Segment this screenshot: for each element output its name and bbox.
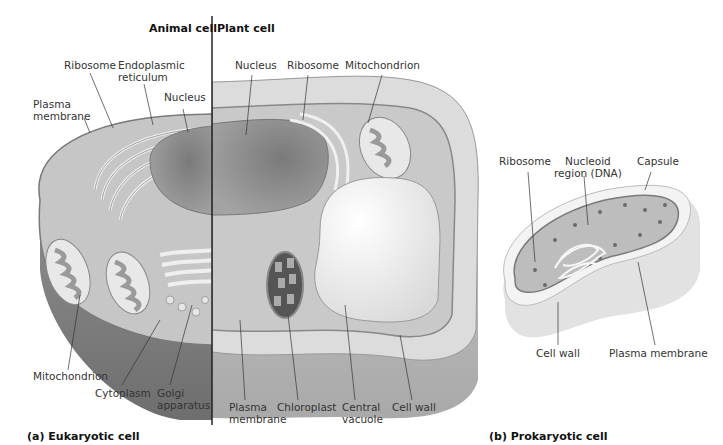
label-cell-wall-prokaryote: Cell wall (536, 347, 580, 359)
label-mitochondrion-animal: Mitochondrion (33, 370, 108, 382)
label-central-vacuole: Central vacuole (342, 401, 383, 425)
prokaryotic-cell (503, 185, 700, 337)
label-cell-wall-plant: Cell wall (392, 401, 436, 413)
caption-prokaryotic: (b) Prokaryotic cell (489, 430, 608, 443)
label-mitochondrion-plant: Mitochondrion (345, 59, 420, 71)
label-ribosome-plant: Ribosome (287, 59, 339, 71)
animal-cell-header: Animal cell (149, 22, 217, 35)
label-golgi-apparatus: Golgi apparatus (157, 387, 210, 411)
label-chloroplast: Chloroplast (277, 401, 336, 413)
label-cytoplasm: Cytoplasm (95, 387, 151, 399)
label-plasma-membrane-prokaryote: Plasma membrane (609, 347, 708, 359)
caption-eukaryotic: (a) Eukaryotic cell (27, 430, 139, 443)
label-ribosome-animal: Ribosome (64, 59, 116, 71)
label-ribosome-prokaryote: Ribosome (499, 155, 551, 167)
plant-cell-header: Plant cell (217, 22, 275, 35)
label-nucleus-plant: Nucleus (235, 59, 277, 71)
label-nucleus-animal: Nucleus (164, 91, 206, 103)
plant-cell (212, 76, 478, 418)
label-capsule: Capsule (637, 155, 679, 167)
label-nucleoid-region: Nucleoid region (DNA) (554, 155, 622, 179)
label-endoplasmic-reticulum: Endoplasmic reticulum (118, 59, 185, 83)
label-plasma-membrane-animal: Plasma membrane (33, 98, 90, 122)
